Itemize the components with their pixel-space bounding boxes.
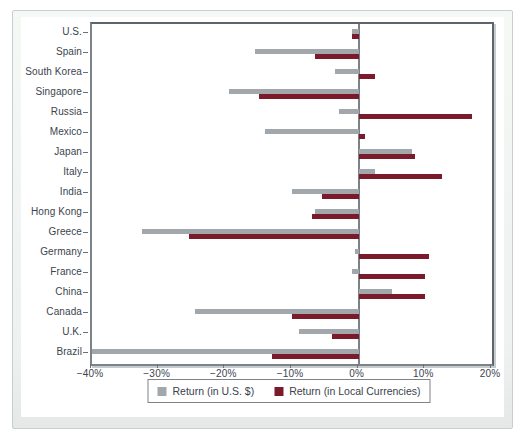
y-axis-label: Canada — [0, 306, 82, 318]
y-axis-label: China — [0, 286, 82, 298]
y-axis-label: France — [0, 266, 82, 278]
y-axis-tick — [83, 92, 88, 93]
y-axis-tick — [83, 152, 88, 153]
bar-local — [359, 154, 416, 159]
y-axis-tick — [83, 112, 88, 113]
plot-area — [90, 22, 494, 366]
y-axis-label: U.S. — [0, 26, 82, 38]
bar-usd — [265, 129, 358, 134]
y-axis-tick — [83, 52, 88, 53]
y-axis-label: Brazil — [0, 346, 82, 358]
y-axis-tick — [83, 232, 88, 233]
y-axis-tick — [83, 292, 88, 293]
bar-local — [359, 274, 426, 279]
y-axis-label: U.K. — [0, 326, 82, 338]
y-axis-tick — [83, 32, 88, 33]
x-axis-tick-label: −40% — [77, 368, 104, 379]
bar-local — [359, 174, 442, 179]
y-axis-label: Japan — [0, 146, 82, 158]
legend-item-local: Return (in Local Currencies) — [274, 385, 420, 397]
legend-label-local: Return (in Local Currencies) — [289, 385, 420, 397]
legend: Return (in U.S. $) Return (in Local Curr… — [147, 379, 430, 403]
bar-local — [359, 74, 376, 79]
bar-local — [292, 314, 359, 319]
y-axis-tick — [83, 212, 88, 213]
y-axis-label: South Korea — [0, 66, 82, 78]
local-series-swatch-icon — [274, 387, 283, 396]
bar-local — [272, 354, 359, 359]
bar-chart: U.S.SpainSouth KoreaSingaporeRussiaMexic… — [0, 0, 524, 430]
figure: U.S.SpainSouth KoreaSingaporeRussiaMexic… — [0, 0, 524, 430]
bar-local — [359, 254, 429, 259]
y-axis-tick — [83, 172, 88, 173]
bar-local — [315, 54, 358, 59]
x-axis-tick-label: 10% — [413, 368, 434, 379]
bar-local — [259, 94, 359, 99]
y-axis-tick — [83, 72, 88, 73]
bar-local — [359, 114, 472, 119]
bar-local — [332, 334, 359, 339]
y-axis-label: Greece — [0, 226, 82, 238]
y-axis-label: Singapore — [0, 86, 82, 98]
y-axis-label: Spain — [0, 46, 82, 58]
y-axis-tick — [83, 132, 88, 133]
legend-item-usd: Return (in U.S. $) — [157, 385, 254, 397]
y-axis-tick — [83, 252, 88, 253]
bar-local — [359, 294, 426, 299]
bar-local — [312, 214, 359, 219]
bar-usd — [339, 109, 359, 114]
y-axis-label: Russia — [0, 106, 82, 118]
bar-local — [322, 194, 359, 199]
y-axis-label: Hong Kong — [0, 206, 82, 218]
y-axis-label: Germany — [0, 246, 82, 258]
x-axis-tick-label: −30% — [143, 368, 170, 379]
x-axis-tick-label: −10% — [277, 368, 304, 379]
bar-local — [189, 234, 359, 239]
y-axis-tick — [83, 332, 88, 333]
y-axis-label: Italy — [0, 166, 82, 178]
y-axis-label: India — [0, 186, 82, 198]
bar-local — [359, 134, 366, 139]
y-axis-label: Mexico — [0, 126, 82, 138]
usd-series-swatch-icon — [157, 387, 166, 396]
x-axis-tick-label: 0% — [349, 368, 364, 379]
x-axis-tick-label: 20% — [480, 368, 501, 379]
legend-label-usd: Return (in U.S. $) — [172, 385, 254, 397]
y-axis-tick — [83, 352, 88, 353]
bar-usd — [335, 69, 358, 74]
bar-usd — [352, 269, 359, 274]
x-axis-tick-label: −20% — [210, 368, 237, 379]
y-axis-tick — [83, 272, 88, 273]
bar-local — [352, 34, 359, 39]
y-axis-tick — [83, 312, 88, 313]
y-axis-tick — [83, 192, 88, 193]
